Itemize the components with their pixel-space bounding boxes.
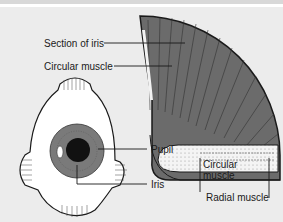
pupil <box>66 138 90 162</box>
label-circular-muscle-bottom-1: Circular <box>203 159 237 170</box>
label-pupil: Pupil <box>151 144 173 155</box>
label-circular-muscle-top: Circular muscle <box>44 61 113 72</box>
label-radial-muscle: Radial muscle <box>206 192 269 203</box>
iris-section <box>140 16 280 180</box>
label-section-of-iris: Section of iris <box>44 38 104 49</box>
label-iris: Iris <box>151 179 164 190</box>
label-circular-muscle-bottom-2: muscle <box>203 170 235 181</box>
eye-front-view <box>20 78 127 217</box>
iris-diagram <box>0 0 283 222</box>
